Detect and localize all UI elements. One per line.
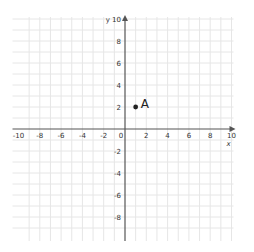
x-tick-label: -8 (36, 132, 43, 140)
x-tick-label: 8 (208, 132, 212, 140)
y-tick-label: 8 (117, 38, 121, 46)
y-tick-label: -8 (114, 214, 121, 222)
y-tick-label: -2 (114, 148, 121, 156)
y-axis-label: y (106, 16, 110, 24)
y-tick-label: 10 (112, 16, 121, 24)
y-tick-label: 2 (117, 104, 121, 112)
x-tick-label: -6 (58, 132, 66, 140)
x-tick-label: -10 (13, 132, 24, 140)
y-tick-label: 4 (117, 82, 122, 90)
coordinate-plane: -10-8-6-4-20246810108642-2-4-6-8xy A (0, 0, 254, 252)
y-tick-label: 6 (117, 60, 122, 68)
x-axis-label: x (225, 140, 231, 148)
x-tick-label: -2 (100, 132, 107, 140)
x-tick-label: 0 (119, 132, 123, 140)
x-tick-label: 6 (187, 132, 192, 140)
y-axis-arrow-icon (122, 15, 128, 21)
data-point (133, 105, 138, 110)
x-tick-label: 2 (144, 132, 148, 140)
axes (13, 15, 236, 241)
x-tick-label: 10 (227, 132, 236, 140)
y-tick-label: -4 (114, 170, 122, 178)
x-tick-label: 4 (165, 132, 170, 140)
y-tick-label: -6 (114, 192, 122, 200)
data-point-label: A (141, 97, 150, 111)
x-tick-label: -4 (79, 132, 87, 140)
